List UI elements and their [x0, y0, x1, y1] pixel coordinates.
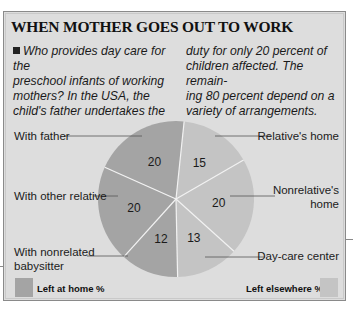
- label-relatives-home: Relative's home: [258, 129, 339, 143]
- slice-value-label: 13: [187, 231, 201, 245]
- slice-value-label: 20: [127, 201, 141, 215]
- label-nonrelatives-home-1: Nonrelative's: [273, 183, 339, 197]
- legend-swatch-left-at-home: [15, 278, 33, 297]
- slice-value-label: 12: [154, 232, 168, 246]
- label-with-nonrelated-2: babysitter: [14, 259, 64, 273]
- label-with-nonrelated-1: With nonrelated: [14, 245, 95, 259]
- slice-value-label: 20: [212, 196, 226, 210]
- slice-value-label: 20: [148, 155, 162, 169]
- label-with-father: With father: [14, 129, 70, 143]
- legend-label-left-elsewhere: Left elsewhere %: [246, 283, 323, 294]
- label-with-other-relative: With other relative: [14, 189, 107, 203]
- slice-value-label: 15: [193, 156, 207, 170]
- legend-swatch-left-elsewhere: [320, 278, 338, 297]
- label-nonrelatives-home-2: home: [310, 197, 339, 211]
- legend-label-left-at-home: Left at home %: [37, 283, 105, 294]
- label-day-care: Day-care center: [257, 249, 339, 263]
